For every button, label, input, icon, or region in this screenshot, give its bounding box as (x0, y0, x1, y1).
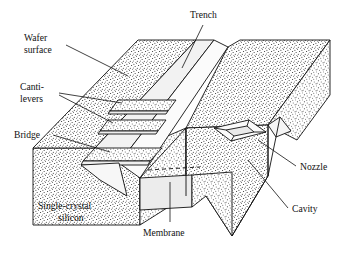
membrane-surface (140, 175, 192, 210)
bridge-beam (83, 148, 162, 161)
label-nozzle: Nozzle (300, 161, 327, 172)
label-cavity: Cavity (292, 203, 318, 214)
label-wafer-surface-line2: surface (24, 44, 52, 55)
label-wafer-surface-line1: Wafer (24, 32, 48, 43)
cantilever-beam-1 (110, 100, 176, 111)
cantilever-beam-2-edge (98, 131, 158, 134)
label-cantilevers-line1: Canti- (20, 81, 44, 92)
label-trench: Trench (190, 9, 217, 20)
label-single-crystal-silicon-line2: silicon (58, 212, 84, 223)
figure-mems-silicon-structures: Trench Wafer surface Canti- levers Bridg… (0, 0, 351, 253)
diagram-canvas: Trench Wafer surface Canti- levers Bridg… (0, 0, 351, 253)
label-cantilevers-line2: levers (20, 93, 43, 104)
cantilever-beam-1-edge (108, 111, 168, 114)
label-membrane: Membrane (143, 227, 185, 238)
label-single-crystal-silicon-line1: Single-crystal (38, 200, 92, 211)
cavity-v-wall (192, 172, 232, 236)
label-bridge: Bridge (14, 129, 40, 140)
